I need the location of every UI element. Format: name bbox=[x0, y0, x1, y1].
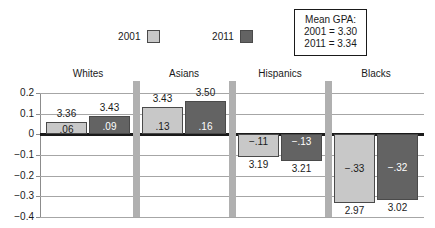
mean-gpa-title: Mean GPA: bbox=[304, 14, 357, 26]
group-title-whites: Whites bbox=[38, 68, 138, 79]
bar-blacks-2011: −.32 bbox=[377, 134, 418, 200]
chart-legend: 2001 2011 bbox=[118, 26, 268, 46]
group-separator bbox=[229, 81, 236, 217]
bar-gpa-label: 3.02 bbox=[373, 203, 423, 213]
bar-hispanics-2001: −.11 bbox=[238, 134, 279, 157]
bar-value-label: .06 bbox=[47, 125, 86, 135]
y-tick-label: −0.1 bbox=[14, 150, 34, 160]
y-tick-mark bbox=[36, 93, 40, 94]
bar-asians-2001: .13 bbox=[142, 107, 183, 134]
bar-value-label: .16 bbox=[186, 122, 225, 132]
y-tick-mark bbox=[36, 217, 40, 218]
bar-whites-2011: .09 bbox=[89, 116, 130, 135]
mean-gpa-box: Mean GPA: 2001 = 3.30 2011 = 3.34 bbox=[294, 9, 367, 56]
legend-swatch-2011 bbox=[240, 30, 253, 43]
group-title-asians: Asians bbox=[134, 68, 234, 79]
y-tick-mark bbox=[36, 155, 40, 156]
bar-gpa-label: 3.50 bbox=[181, 88, 231, 98]
mean-gpa-2011: 2011 = 3.34 bbox=[304, 38, 357, 50]
y-tick-label: 0.1 bbox=[20, 109, 34, 119]
bar-gpa-label: 3.21 bbox=[277, 164, 327, 174]
bar-asians-2011: .16 bbox=[185, 101, 226, 134]
bar-value-label: .13 bbox=[143, 122, 182, 132]
group-title-blacks: Blacks bbox=[326, 68, 426, 79]
y-tick-label: −0.4 bbox=[14, 212, 34, 222]
legend-swatch-2001 bbox=[147, 30, 160, 43]
bar-value-label: −.33 bbox=[335, 164, 374, 174]
legend-item-2011: 2011 bbox=[212, 26, 253, 46]
grouped-bar-chart: 0.20.10−0.1−0.2−0.3−0.4 Whites.063.36.09… bbox=[0, 60, 435, 228]
group-title-hispanics: Hispanics bbox=[230, 68, 330, 79]
legend-label-2011: 2011 bbox=[212, 31, 234, 42]
group-separator bbox=[325, 81, 332, 217]
legend-item-2001: 2001 bbox=[118, 26, 160, 46]
y-tick-mark bbox=[36, 196, 40, 197]
bar-value-label: .09 bbox=[90, 122, 129, 132]
bar-gpa-label: 3.43 bbox=[85, 103, 135, 113]
y-tick-label: 0.2 bbox=[20, 88, 34, 98]
y-tick-mark bbox=[36, 114, 40, 115]
gridline bbox=[40, 217, 424, 218]
bar-hispanics-2011: −.13 bbox=[281, 134, 322, 161]
y-axis-labels: 0.20.10−0.1−0.2−0.3−0.4 bbox=[0, 93, 34, 217]
y-tick-label: −0.3 bbox=[14, 191, 34, 201]
bar-value-label: −.11 bbox=[239, 137, 278, 147]
bar-whites-2001: .06 bbox=[46, 122, 87, 134]
bar-blacks-2001: −.33 bbox=[334, 134, 375, 202]
bar-value-label: −.32 bbox=[378, 163, 417, 173]
bar-value-label: −.13 bbox=[282, 137, 321, 147]
plot-area: Whites.063.36.093.43Asians.133.43.163.50… bbox=[40, 93, 424, 217]
mean-gpa-2001: 2001 = 3.30 bbox=[304, 26, 357, 38]
y-tick-mark bbox=[36, 176, 40, 177]
y-tick-label: 0 bbox=[28, 129, 34, 139]
legend-label-2001: 2001 bbox=[118, 31, 141, 42]
y-tick-label: −0.2 bbox=[14, 171, 34, 181]
